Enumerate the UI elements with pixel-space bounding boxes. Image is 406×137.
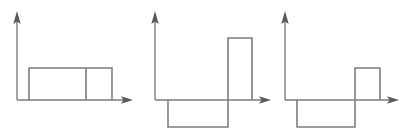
figure-panel xyxy=(0,0,406,137)
panel-3-waveform xyxy=(297,68,380,127)
panel-2-group xyxy=(151,11,271,127)
panel-1-group xyxy=(13,11,133,104)
panel-3-group xyxy=(281,11,399,127)
panel-2-waveform xyxy=(168,38,252,127)
waveform-figure-svg xyxy=(0,0,406,137)
panel-1-waveform xyxy=(29,68,112,100)
